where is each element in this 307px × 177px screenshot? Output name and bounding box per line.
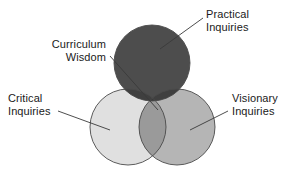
- label-critical-inquiries: Critical Inquiries: [8, 92, 50, 118]
- label-visionary-line2: Inquiries: [232, 105, 278, 118]
- label-visionary-line1: Visionary: [232, 92, 278, 104]
- label-practical-line1: Practical: [206, 8, 249, 20]
- label-visionary-inquiries: Visionary Inquiries: [232, 92, 278, 118]
- label-curriculum-line2: Wisdom: [34, 51, 106, 64]
- venn-diagram-canvas: Practical Inquiries Curriculum Wisdom Cr…: [0, 0, 307, 177]
- label-curriculum-line1: Curriculum: [52, 38, 106, 50]
- label-practical-inquiries: Practical Inquiries: [206, 8, 249, 34]
- label-practical-line2: Inquiries: [206, 21, 249, 34]
- label-critical-line1: Critical: [8, 92, 42, 104]
- venn-diagram-graphic: [0, 0, 307, 177]
- label-critical-line2: Inquiries: [8, 105, 50, 118]
- label-curriculum-wisdom: Curriculum Wisdom: [34, 38, 106, 64]
